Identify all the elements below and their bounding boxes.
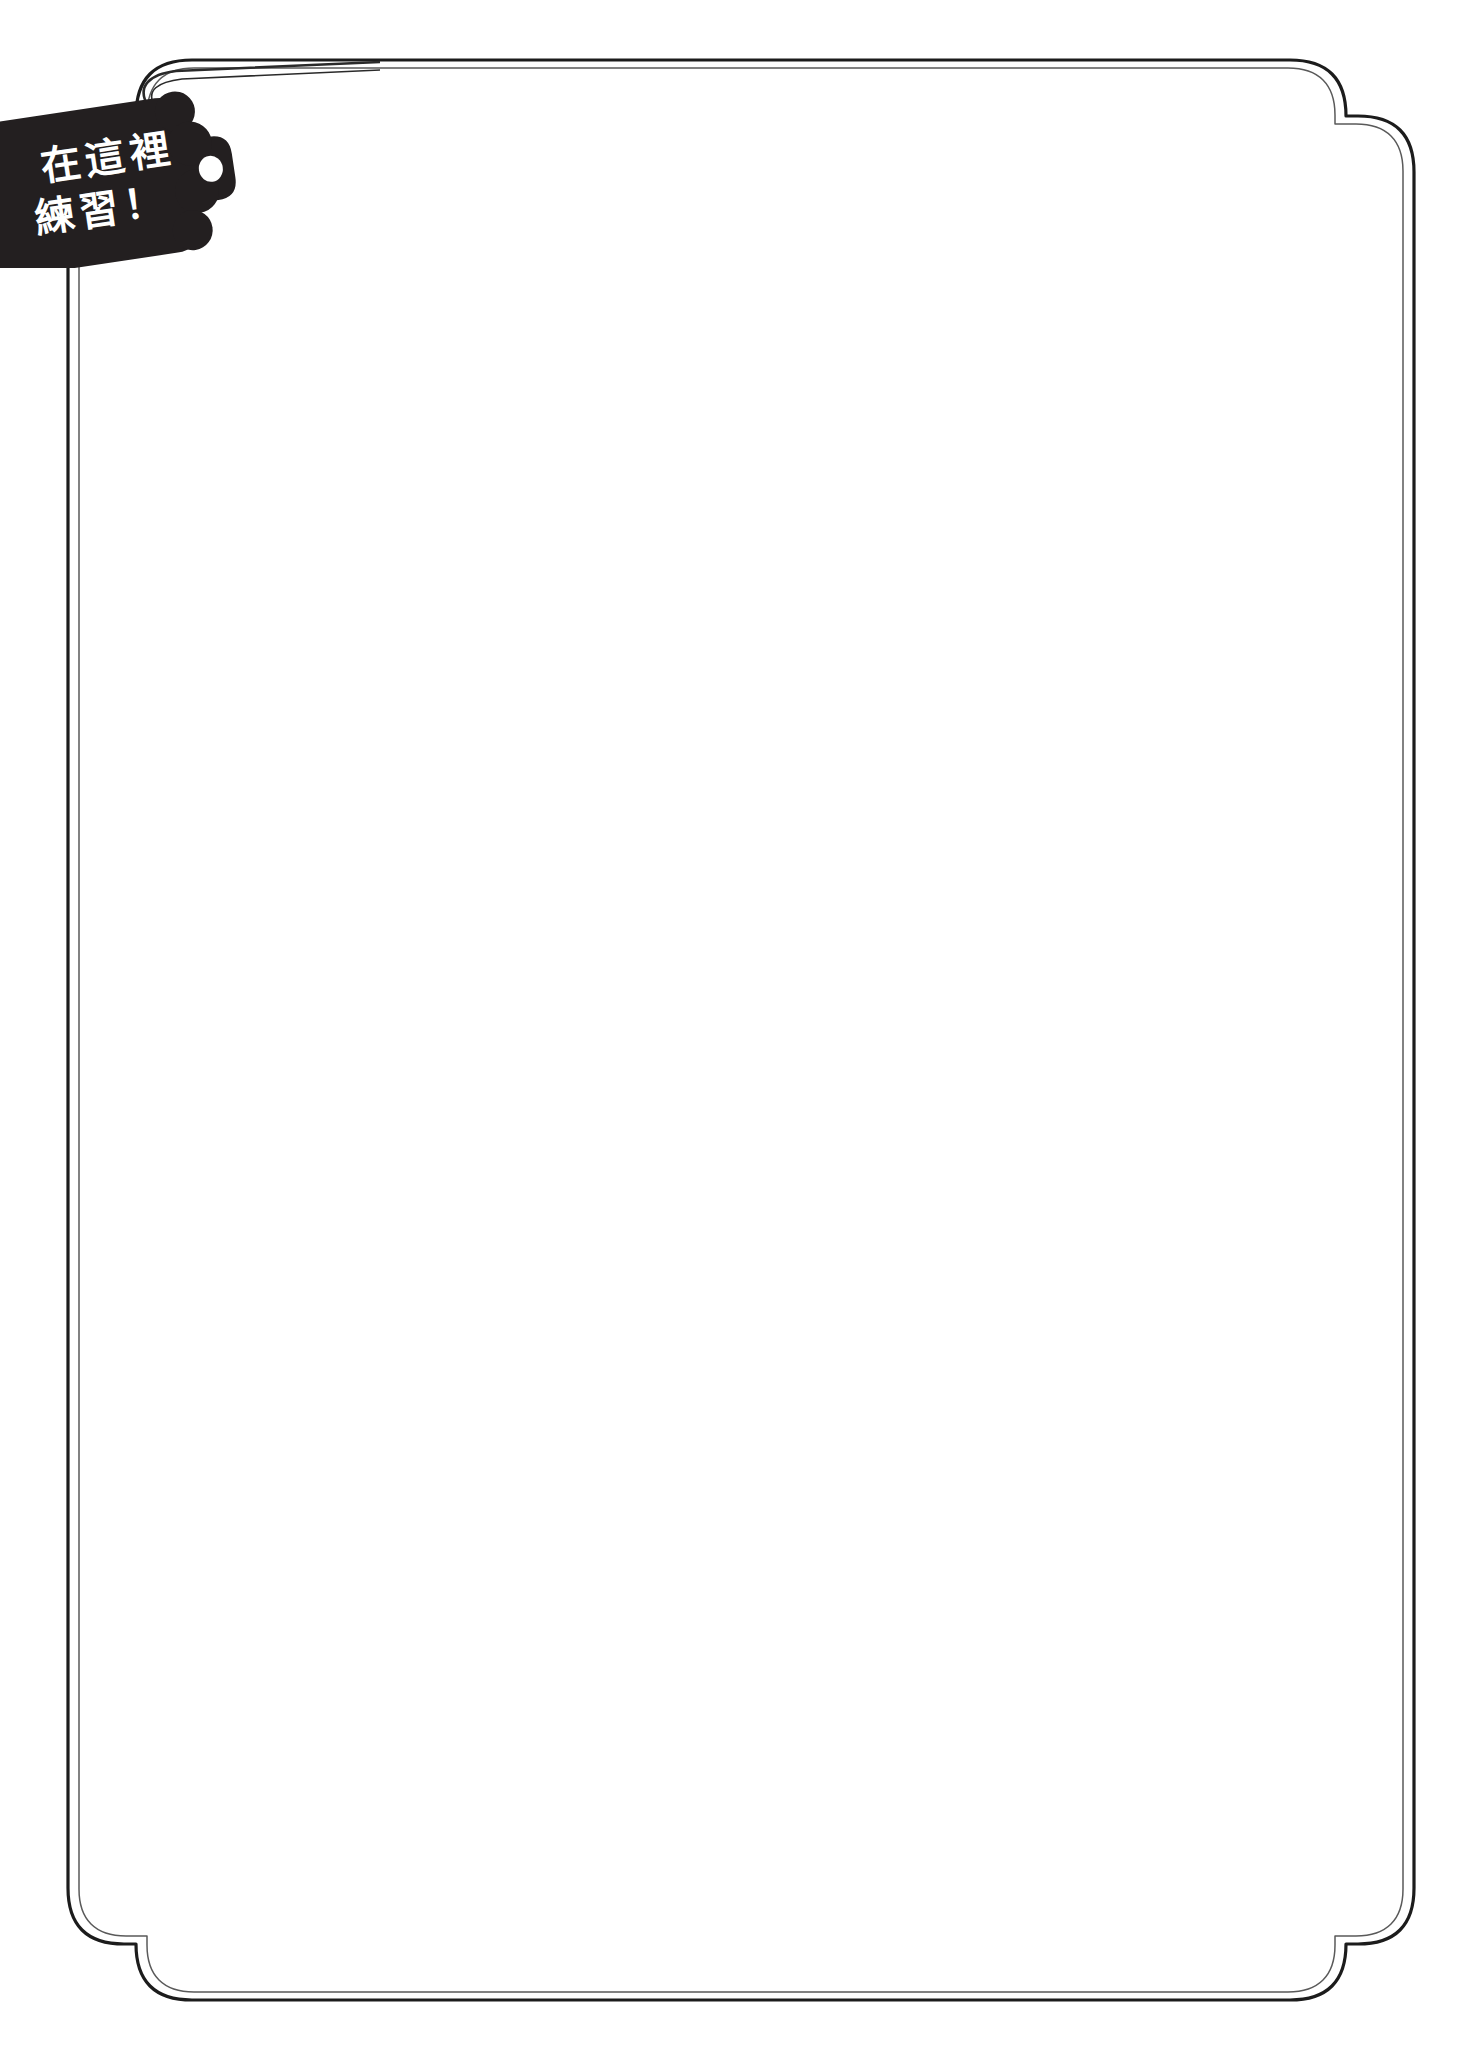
tag-shape	[0, 38, 380, 268]
blank-practice-area[interactable]	[80, 75, 1370, 1985]
worksheet-page: 在這裡 練習！	[0, 0, 1470, 2059]
practice-here-tag[interactable]: 在這裡 練習！	[0, 38, 380, 268]
